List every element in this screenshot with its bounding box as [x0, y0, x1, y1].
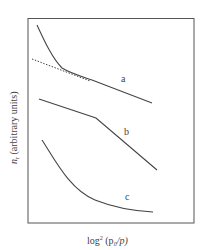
- y-axis-label: nr (arbitrary units): [8, 91, 20, 164]
- plot-frame: [28, 19, 194, 224]
- chart: a b c log2 (p0/p) nr (arbitrary units): [0, 0, 203, 250]
- curve-c: [42, 140, 153, 212]
- label-a: a: [121, 73, 126, 84]
- curve-b: [39, 99, 157, 170]
- x-axis-label: log2 (p0/p): [87, 235, 128, 247]
- curve-a: [37, 25, 152, 103]
- curve-a-extrapolation: [32, 59, 90, 81]
- label-b: b: [124, 126, 129, 137]
- label-c: c: [125, 191, 130, 202]
